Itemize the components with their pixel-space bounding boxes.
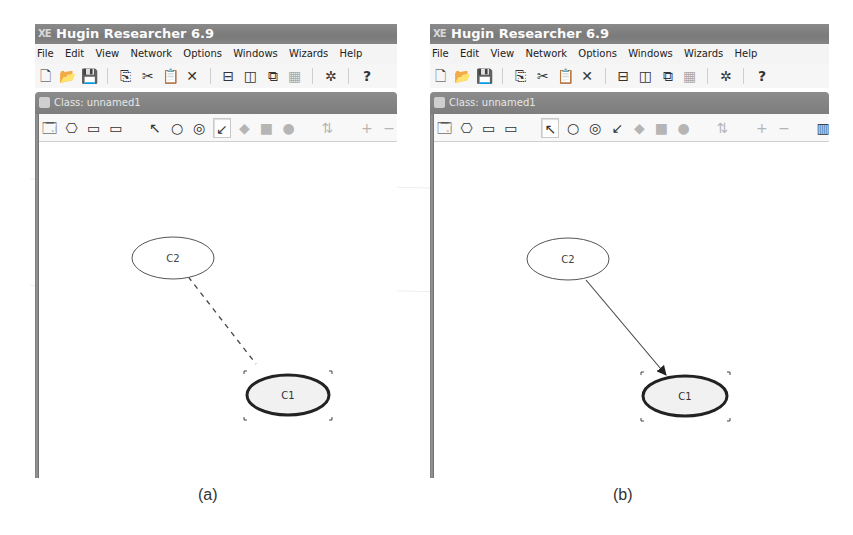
discrete-node-icon[interactable]: ◎: [587, 118, 604, 138]
toolbar-separator: [605, 68, 606, 84]
layout-icon[interactable]: ⇅: [319, 118, 336, 138]
run-mode-icon[interactable]: ▭: [502, 118, 519, 138]
network-canvas[interactable]: C2 C1: [434, 143, 829, 478]
class-window-title: Class: unnamed1: [449, 97, 536, 108]
compile-icon[interactable]: ▭: [480, 118, 497, 138]
menu-network[interactable]: Network: [130, 44, 172, 64]
class-properties-icon[interactable]: 🗔: [436, 118, 453, 138]
tile-vertical-icon[interactable]: ◫: [242, 67, 259, 85]
new-file-icon[interactable]: 🗋: [432, 67, 449, 85]
toolbar-separator: [707, 68, 708, 84]
cascade-windows-icon[interactable]: ⧉: [264, 67, 281, 85]
select-pointer-icon[interactable]: ↖: [146, 118, 163, 138]
compile-icon[interactable]: ▭: [85, 118, 102, 138]
open-folder-icon[interactable]: 📂: [454, 67, 471, 85]
paste-icon[interactable]: 📋: [162, 67, 179, 85]
network-properties-icon[interactable]: ⎔: [63, 118, 80, 138]
zoom-out-icon[interactable]: −: [381, 118, 398, 138]
cut-scissors-icon[interactable]: ✂: [139, 67, 156, 85]
save-disk-icon[interactable]: 💾: [81, 67, 98, 85]
chance-node-icon[interactable]: ○: [565, 118, 582, 138]
menu-view[interactable]: View: [490, 44, 514, 64]
table-view-icon[interactable]: ▥: [815, 118, 829, 138]
discrete-node-icon[interactable]: ◎: [191, 118, 208, 138]
menu-help[interactable]: Help: [734, 44, 757, 64]
menu-windows[interactable]: Windows: [628, 44, 673, 64]
save-disk-icon[interactable]: 💾: [476, 67, 493, 85]
main-toolbar: 🗋 📂 💾 ⎘ ✂ 📋 ✕ ⊟ ◫ ⧉ ▦ ✲ ?: [430, 64, 829, 88]
node-c1-selected[interactable]: C1: [244, 371, 332, 420]
class-document-icon: [434, 97, 445, 108]
node-c2[interactable]: C2: [132, 237, 214, 279]
decision-node-icon[interactable]: ◆: [236, 118, 253, 138]
cascade-windows-icon[interactable]: ⧉: [659, 67, 676, 85]
class-properties-icon[interactable]: 🗔: [41, 118, 58, 138]
main-toolbar: 🗋 📂 💾 ⎘ ✂ 📋 ✕ ⊟ ◫ ⧉ ▦ ✲ ?: [35, 64, 397, 88]
menu-help[interactable]: Help: [339, 44, 362, 64]
node-c2[interactable]: C2: [527, 238, 609, 280]
class-document-icon: [39, 97, 50, 108]
help-question-icon[interactable]: ?: [359, 67, 376, 85]
copy-icon[interactable]: ⎘: [117, 67, 134, 85]
utility-node-icon[interactable]: ■: [258, 118, 275, 138]
network-wizard-icon[interactable]: ✲: [717, 67, 734, 85]
new-file-icon[interactable]: 🗋: [37, 67, 54, 85]
menu-windows[interactable]: Windows: [233, 44, 278, 64]
layout-icon[interactable]: ⇅: [714, 118, 731, 138]
delete-x-icon[interactable]: ✕: [184, 67, 201, 85]
network-wizard-icon[interactable]: ✲: [322, 67, 339, 85]
menu-options[interactable]: Options: [183, 44, 222, 64]
app-title: Hugin Researcher 6.9: [56, 26, 214, 41]
menu-network[interactable]: Network: [525, 44, 567, 64]
link-arrow-icon[interactable]: ↙: [213, 118, 231, 138]
open-folder-icon[interactable]: 📂: [59, 67, 76, 85]
class-window: Class: unnamed1 🗔 ⎔ ▭ ▭ ↖ ○ ◎ ↙ ◆ ■ ● ⇅ …: [430, 92, 829, 478]
run-mode-icon[interactable]: ▭: [107, 118, 124, 138]
app-title: Hugin Researcher 6.9: [451, 26, 609, 41]
network-canvas[interactable]: C2 C1: [39, 143, 397, 478]
menu-file[interactable]: File: [37, 44, 54, 64]
tile-horizontal-icon[interactable]: ⊟: [615, 67, 632, 85]
arrange-icons-icon[interactable]: ▦: [681, 67, 698, 85]
menubar: File Edit View Network Options Windows W…: [430, 44, 829, 64]
menu-wizards[interactable]: Wizards: [289, 44, 328, 64]
zoom-in-icon[interactable]: +: [358, 118, 375, 138]
toolbar-separator: [210, 68, 211, 84]
select-pointer-icon[interactable]: ↖: [541, 118, 559, 138]
class-window-titlebar: Class: unnamed1: [430, 92, 829, 114]
chance-node-icon[interactable]: ○: [169, 118, 186, 138]
cut-scissors-icon[interactable]: ✂: [534, 67, 551, 85]
copy-icon[interactable]: ⎘: [512, 67, 529, 85]
class-window-title: Class: unnamed1: [54, 97, 141, 108]
figure-caption-a: (a): [198, 486, 218, 504]
zoom-out-icon[interactable]: −: [776, 118, 793, 138]
link-arrow-c2-c1[interactable]: [586, 280, 666, 375]
arrange-icons-icon[interactable]: ▦: [286, 67, 303, 85]
utility-node-icon[interactable]: ■: [653, 118, 670, 138]
network-properties-icon[interactable]: ⎔: [458, 118, 475, 138]
menu-view[interactable]: View: [95, 44, 119, 64]
hugin-app-icon: XE: [38, 24, 52, 44]
menu-edit[interactable]: Edit: [460, 44, 479, 64]
toolbar-separator: [107, 68, 108, 84]
tile-horizontal-icon[interactable]: ⊟: [220, 67, 237, 85]
help-question-icon[interactable]: ?: [754, 67, 771, 85]
tile-vertical-icon[interactable]: ◫: [637, 67, 654, 85]
node-c1-selected[interactable]: C1: [641, 372, 730, 421]
link-arrow-icon[interactable]: ↙: [609, 118, 626, 138]
instance-node-icon[interactable]: ●: [280, 118, 297, 138]
delete-x-icon[interactable]: ✕: [579, 67, 596, 85]
hugin-window-panel-a: XEHugin Researcher 6.9 File Edit View Ne…: [35, 24, 397, 478]
menu-wizards[interactable]: Wizards: [684, 44, 723, 64]
figure-caption-b: (b): [613, 486, 633, 504]
decision-node-icon[interactable]: ◆: [631, 118, 648, 138]
menu-file[interactable]: File: [432, 44, 449, 64]
menu-options[interactable]: Options: [578, 44, 617, 64]
network-graph: C2 C1: [434, 143, 829, 478]
zoom-in-icon[interactable]: +: [753, 118, 770, 138]
instance-node-icon[interactable]: ●: [675, 118, 692, 138]
paste-icon[interactable]: 📋: [557, 67, 574, 85]
menubar: File Edit View Network Options Windows W…: [35, 44, 397, 64]
menu-edit[interactable]: Edit: [65, 44, 84, 64]
hugin-app-icon: XE: [433, 24, 447, 44]
